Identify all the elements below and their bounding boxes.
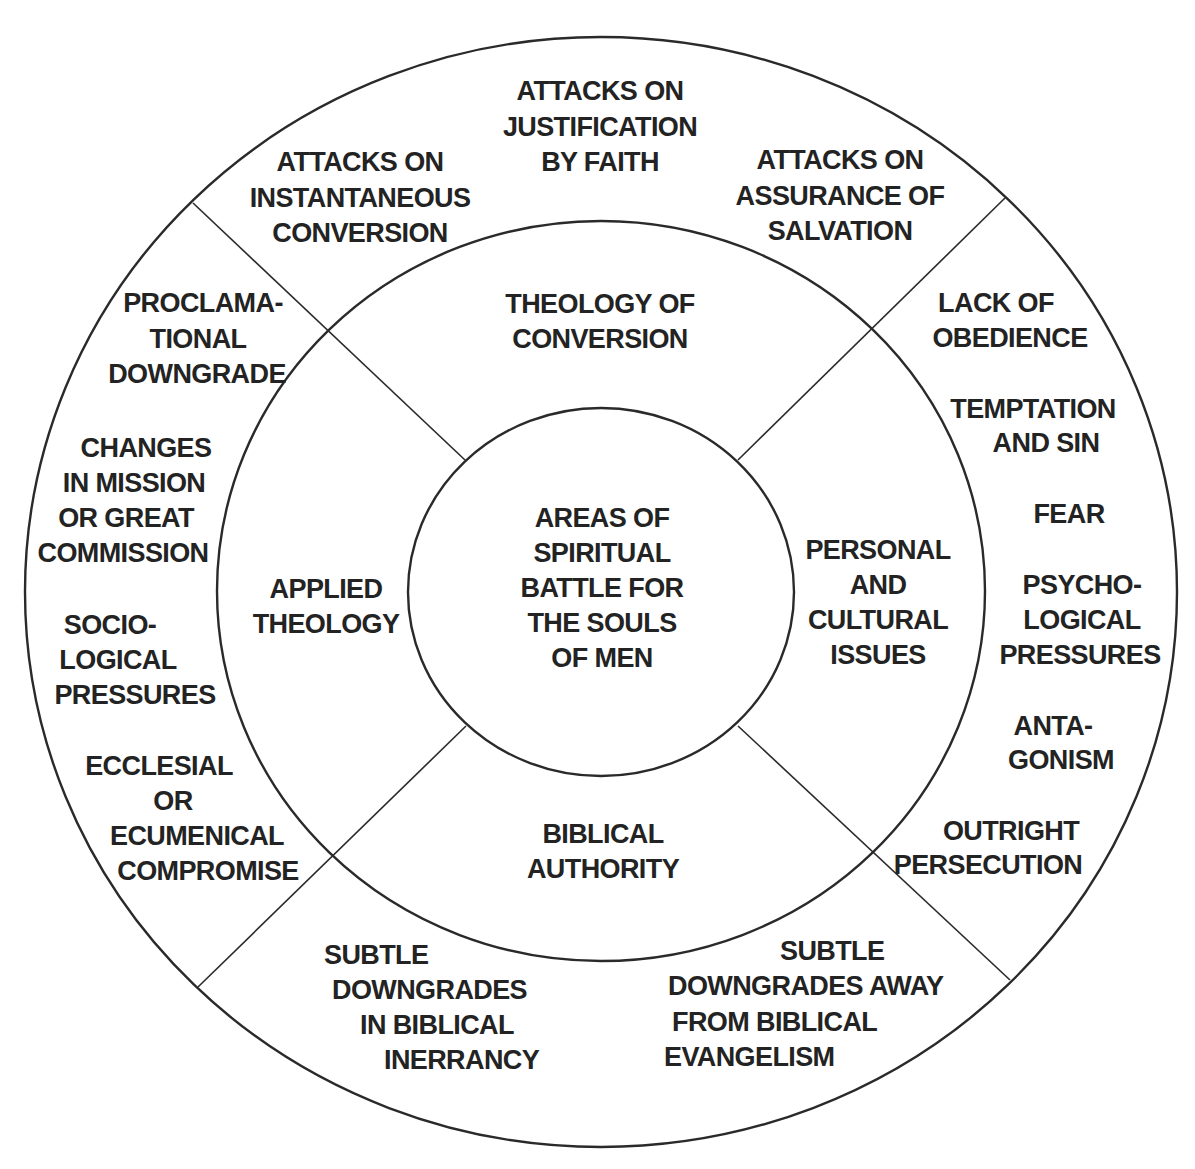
label-line: SUBTLE xyxy=(324,940,428,970)
label-line: CHANGES xyxy=(81,433,212,463)
label-line: DOWNGRADES xyxy=(332,975,527,1005)
label-line: BIBLICAL xyxy=(542,819,663,849)
label-line: PRESSURES xyxy=(999,640,1160,670)
label-line: FEAR xyxy=(1033,499,1104,529)
label-line: SOCIO- xyxy=(64,610,156,640)
outer-right-label-6: OUTRIGHT PERSECUTION xyxy=(894,816,1082,880)
outer-right-label-3: FEAR xyxy=(1033,499,1104,529)
outer-left-label-1: PROCLAMA- TIONAL DOWNGRADE xyxy=(108,288,286,389)
label-line: PERSECUTION xyxy=(894,850,1082,880)
label-line: THEOLOGY OF xyxy=(505,289,695,319)
center-label: AREAS OF SPIRITUAL BATTLE FOR THE SOULS … xyxy=(521,503,684,673)
label-line: ECCLESIAL xyxy=(85,751,233,781)
label-line: BY FAITH xyxy=(541,147,659,177)
label-line: AND SIN xyxy=(993,428,1100,458)
center-line: BATTLE FOR xyxy=(521,573,684,603)
label-line: LOGICAL xyxy=(1023,605,1140,635)
middle-right-label: PERSONAL AND CULTURAL ISSUES xyxy=(805,535,950,670)
center-line: SPIRITUAL xyxy=(533,538,670,568)
outer-left-label-3: SOCIO- LOGICAL PRESSURES xyxy=(54,610,215,710)
center-line: THE SOULS xyxy=(527,608,676,638)
label-line: JUSTIFICATION xyxy=(503,112,697,142)
label-line: INSTANTANEOUS xyxy=(250,183,471,213)
label-line: LOGICAL xyxy=(59,645,176,675)
outer-bottom-right-label: SUBTLE DOWNGRADES AWAY FROM BIBLICAL EVA… xyxy=(664,936,944,1072)
label-line: THEOLOGY xyxy=(253,609,400,639)
label-line: CONVERSION xyxy=(272,218,448,248)
label-line: OBEDIENCE xyxy=(932,323,1087,353)
label-line: ASSURANCE OF xyxy=(736,181,945,211)
label-line: IN MISSION xyxy=(63,468,206,498)
outer-right-label-1: LACK OF OBEDIENCE xyxy=(932,288,1087,353)
label-line: PROCLAMA- xyxy=(123,288,283,318)
label-line: COMPROMISE xyxy=(117,856,299,886)
middle-bottom-label: BIBLICAL AUTHORITY xyxy=(527,819,680,884)
label-line: DOWNGRADE xyxy=(108,359,286,389)
label-line: AND xyxy=(850,570,907,600)
label-line: SALVATION xyxy=(768,216,913,246)
outer-right-label-5: ANTA- GONISM xyxy=(1008,711,1114,775)
label-line: ECUMENICAL xyxy=(110,821,284,851)
label-line: INERRANCY xyxy=(384,1045,540,1075)
label-line: PRESSURES xyxy=(54,680,215,710)
label-line: ISSUES xyxy=(830,640,925,670)
label-line: ANTA- xyxy=(1014,711,1093,741)
label-line: CONVERSION xyxy=(512,324,688,354)
label-line: ATTACKS ON xyxy=(517,76,684,106)
label-line: DOWNGRADES AWAY xyxy=(668,971,944,1001)
label-line: GONISM xyxy=(1008,745,1114,775)
outer-bottom-left-label: SUBTLE DOWNGRADES IN BIBLICAL INERRANCY xyxy=(324,940,540,1075)
spiritual-battle-diagram: AREAS OF SPIRITUAL BATTLE FOR THE SOULS … xyxy=(0,0,1195,1169)
label-line: OUTRIGHT xyxy=(943,816,1080,846)
label-line: OR GREAT xyxy=(58,503,195,533)
label-line: PSYCHO- xyxy=(1023,570,1142,600)
label-line: AUTHORITY xyxy=(527,854,680,884)
label-line: PERSONAL xyxy=(805,535,950,565)
outer-right-label-4: PSYCHO- LOGICAL PRESSURES xyxy=(999,570,1160,670)
label-line: TIONAL xyxy=(150,324,247,354)
middle-top-label: THEOLOGY OF CONVERSION xyxy=(505,289,695,354)
outer-top-left-label: ATTACKS ON INSTANTANEOUS CONVERSION xyxy=(250,147,471,248)
label-line: TEMPTATION xyxy=(950,394,1115,424)
label-line: APPLIED xyxy=(270,574,383,604)
outer-top-center-label: ATTACKS ON JUSTIFICATION BY FAITH xyxy=(503,76,697,177)
outer-left-label-2: CHANGES IN MISSION OR GREAT COMMISSION xyxy=(37,433,211,568)
label-line: SUBTLE xyxy=(780,936,884,966)
outer-top-right-label: ATTACKS ON ASSURANCE OF SALVATION xyxy=(736,145,945,246)
label-line: FROM BIBLICAL xyxy=(672,1007,877,1037)
label-line: LACK OF xyxy=(938,288,1054,318)
label-line: ATTACKS ON xyxy=(757,145,924,175)
center-line: OF MEN xyxy=(551,643,652,673)
center-line: AREAS OF xyxy=(535,503,670,533)
label-line: IN BIBLICAL xyxy=(360,1010,514,1040)
label-line: COMMISSION xyxy=(37,538,208,568)
label-line: ATTACKS ON xyxy=(277,147,444,177)
label-line: EVANGELISM xyxy=(664,1042,835,1072)
label-line: OR xyxy=(153,786,192,816)
label-line: CULTURAL xyxy=(808,605,948,635)
middle-left-label: APPLIED THEOLOGY xyxy=(253,574,400,639)
outer-right-label-2: TEMPTATION AND SIN xyxy=(950,394,1115,458)
